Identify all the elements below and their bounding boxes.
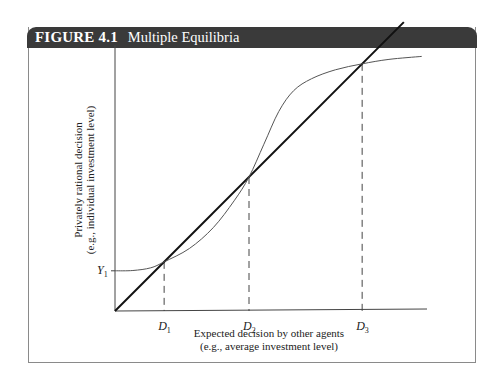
x-axis (115, 309, 427, 311)
best-response-curve (115, 56, 422, 270)
x-axis-label: Expected decision by other agents(e.g., … (194, 327, 344, 353)
y-tick-subscript: 1 (104, 270, 108, 279)
x-axis-label-line-2: (e.g., average investment level) (200, 340, 338, 353)
x-tick-subscript: 1 (167, 326, 171, 335)
diagram-canvas: D1D2D3 Y1 Expected decision by other age… (0, 0, 499, 383)
x-tick-label-D3: D3 (355, 319, 369, 335)
y-tick-label-Y1: Y1 (97, 263, 108, 279)
y-axis-label-line-1: Privately rational decision (72, 122, 84, 238)
y-axis-label: Privately rational decision(e.g., indivi… (72, 105, 97, 254)
forty-five-degree-line (115, 22, 404, 311)
y-axis-label-line-2: (e.g., individual investment level) (84, 105, 97, 254)
x-tick-label-D1: D1 (157, 319, 171, 335)
x-axis-label-line-1: Expected decision by other agents (194, 327, 344, 339)
x-tick-subscript: 3 (365, 326, 369, 335)
